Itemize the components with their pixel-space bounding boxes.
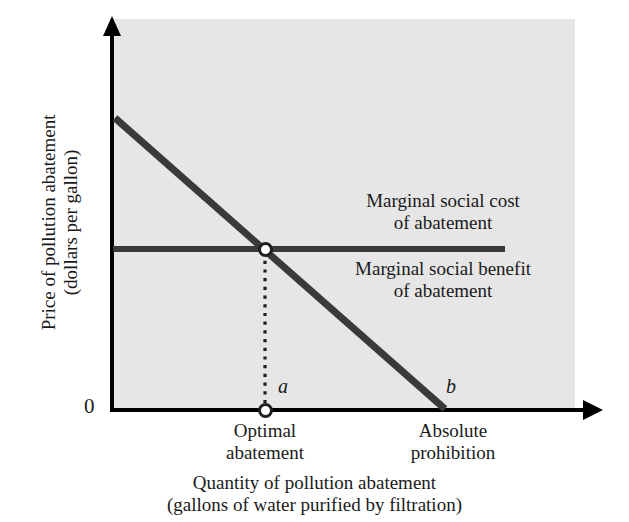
optimal-abatement-point-marker <box>258 403 273 418</box>
y-axis-arrow-icon <box>103 16 121 36</box>
absolute-prohibition-line2: prohibition <box>368 442 538 464</box>
absolute-prohibition-line1: Absolute <box>368 420 538 442</box>
absolute-prohibition-annotation: Absolute prohibition <box>368 420 538 465</box>
optimal-abatement-line2: abatement <box>185 442 345 464</box>
optimal-abatement-annotation: Optimal abatement <box>185 420 345 465</box>
y-axis-title: Price of pollution abatement (dollars pe… <box>38 42 83 402</box>
x-axis-title-line1: Quantity of pollution abatement <box>0 472 629 494</box>
y-axis-line <box>110 30 114 412</box>
origin-label: 0 <box>84 394 95 419</box>
marginal-social-benefit-label: Marginal social benefit of abatement <box>327 258 559 303</box>
economics-figure: Marginal social cost of abatement Margin… <box>0 0 629 522</box>
point-label-a: a <box>278 375 288 399</box>
msc-label-line2: of abatement <box>327 212 559 234</box>
x-axis-title-line2: (gallons of water purified by filtration… <box>0 494 629 516</box>
y-axis-title-line1: Price of pollution abatement <box>38 42 60 402</box>
msb-label-line2: of abatement <box>327 280 559 302</box>
msc-label-line1: Marginal social cost <box>327 190 559 212</box>
x-axis-line <box>110 408 588 412</box>
equilibrium-point-marker <box>258 242 273 257</box>
msb-label-line1: Marginal social benefit <box>327 258 559 280</box>
x-axis-arrow-icon <box>583 400 603 420</box>
y-axis-title-line2: (dollars per gallon) <box>60 42 82 402</box>
x-axis-title: Quantity of pollution abatement (gallons… <box>0 472 629 517</box>
point-label-b: b <box>446 375 456 399</box>
marginal-social-cost-label: Marginal social cost of abatement <box>327 190 559 235</box>
optimal-abatement-line1: Optimal <box>185 420 345 442</box>
